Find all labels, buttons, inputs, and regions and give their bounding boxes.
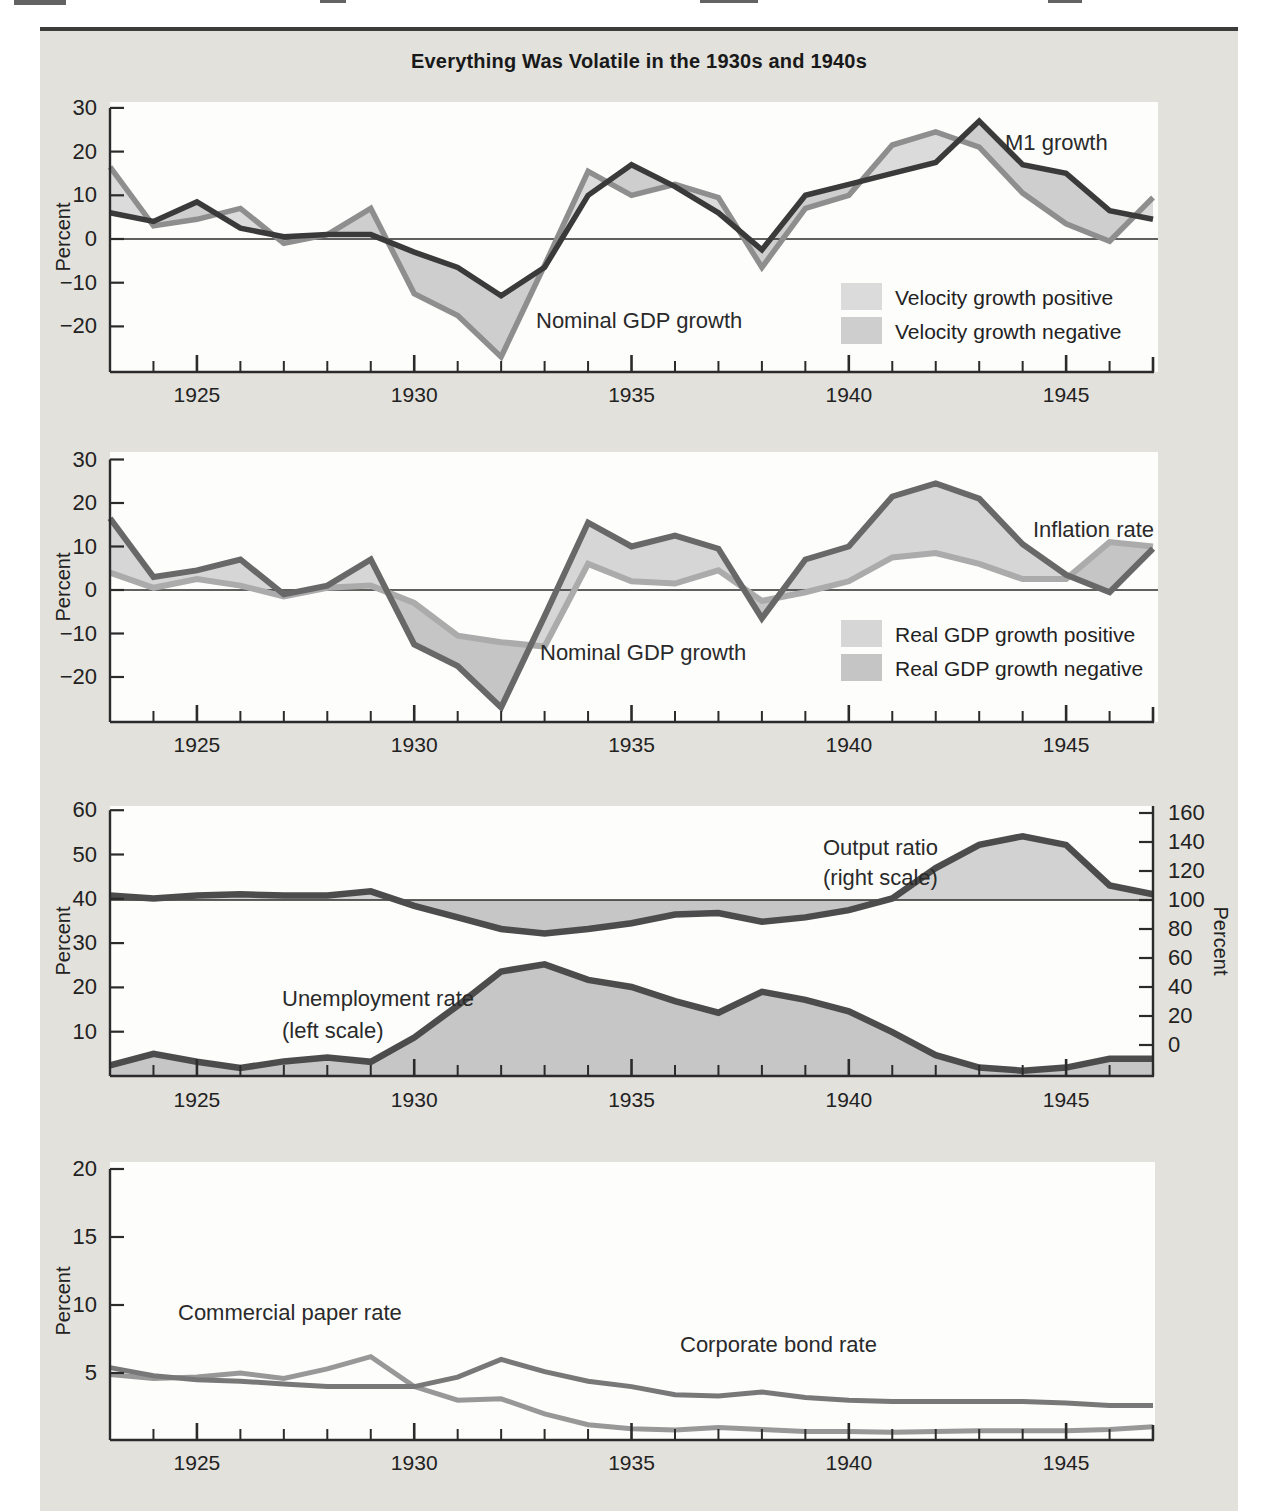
y-tick-label: 50 — [73, 842, 97, 867]
x-tick-label: 1940 — [825, 733, 872, 756]
y-tick-label-right: 140 — [1168, 829, 1205, 854]
series-annotation: Commercial paper rate — [178, 1300, 402, 1325]
y-tick-label: 0 — [85, 226, 97, 251]
x-tick-label: 1940 — [825, 1088, 872, 1111]
x-tick-label: 1945 — [1043, 383, 1090, 406]
series-annotation: Nominal GDP growth — [536, 308, 742, 333]
charts-svg: 3020100−10−2019251930193519401945Percent… — [0, 0, 1261, 1511]
y-tick-label: 10 — [73, 182, 97, 207]
y-tick-label: −10 — [60, 270, 97, 295]
y-axis-title-right: Percent — [1210, 907, 1232, 976]
legend-label: Velocity growth negative — [895, 320, 1121, 343]
y-tick-label: 10 — [73, 1019, 97, 1044]
series-annotation: M1 growth — [1005, 130, 1108, 155]
y-tick-label: 0 — [85, 577, 97, 602]
series-annotation: Corporate bond rate — [680, 1332, 877, 1357]
x-tick-label: 1935 — [608, 383, 655, 406]
series-annotation: Output ratio — [823, 835, 938, 860]
panel-money-velocity: 3020100−10−2019251930193519401945Percent… — [52, 95, 1158, 406]
x-tick-label: 1940 — [825, 383, 872, 406]
series-annotation: Inflation rate — [1033, 517, 1154, 542]
y-axis-title: Percent — [52, 202, 74, 271]
y-tick-label: 30 — [73, 95, 97, 120]
y-tick-label-right: 120 — [1168, 858, 1205, 883]
y-tick-label-right: 80 — [1168, 916, 1192, 941]
y-tick-label: 10 — [73, 1292, 97, 1317]
y-tick-label-right: 160 — [1168, 800, 1205, 825]
x-tick-label: 1945 — [1043, 1088, 1090, 1111]
y-axis-title: Percent — [52, 552, 74, 621]
x-tick-label: 1935 — [608, 733, 655, 756]
x-tick-label: 1925 — [174, 1088, 221, 1111]
panel-interest-rates: 201510519251930193519401945PercentCommer… — [52, 1156, 1155, 1474]
legend-swatch — [841, 654, 882, 681]
x-tick-label: 1930 — [391, 1451, 438, 1474]
x-tick-label: 1940 — [825, 1451, 872, 1474]
legend-label: Real GDP growth positive — [895, 623, 1135, 646]
x-tick-label: 1925 — [174, 1451, 221, 1474]
y-tick-label-right: 60 — [1168, 945, 1192, 970]
y-tick-label-right: 20 — [1168, 1003, 1192, 1028]
y-tick-label: 30 — [73, 930, 97, 955]
y-tick-label: 20 — [73, 139, 97, 164]
x-tick-label: 1945 — [1043, 733, 1090, 756]
y-tick-label: 5 — [85, 1360, 97, 1385]
series-annotation: (right scale) — [823, 865, 938, 890]
panel-output-unemployment: 6050403020101601401201008060402001925193… — [52, 797, 1232, 1111]
y-tick-label-right: 0 — [1168, 1032, 1180, 1057]
y-tick-label: 15 — [73, 1224, 97, 1249]
y-tick-label: −20 — [60, 664, 97, 689]
x-tick-label: 1935 — [608, 1451, 655, 1474]
series-annotation: Unemployment rate — [282, 986, 474, 1011]
y-axis-title: Percent — [52, 906, 74, 975]
y-tick-label-right: 100 — [1168, 887, 1205, 912]
legend-label: Real GDP growth negative — [895, 657, 1143, 680]
y-tick-label: 40 — [73, 886, 97, 911]
y-tick-label: 20 — [73, 490, 97, 515]
y-tick-label: 30 — [73, 447, 97, 472]
legend-label: Velocity growth positive — [895, 286, 1113, 309]
y-axis-title: Percent — [52, 1266, 74, 1335]
series-annotation: (left scale) — [282, 1018, 383, 1043]
x-tick-label: 1925 — [174, 383, 221, 406]
y-tick-label: 60 — [73, 797, 97, 822]
y-tick-label: 10 — [73, 534, 97, 559]
x-tick-label: 1945 — [1043, 1451, 1090, 1474]
y-tick-label: 20 — [73, 974, 97, 999]
x-tick-label: 1935 — [608, 1088, 655, 1111]
series-annotation: Nominal GDP growth — [540, 640, 746, 665]
y-tick-label: −10 — [60, 621, 97, 646]
x-tick-label: 1930 — [391, 1088, 438, 1111]
x-tick-label: 1925 — [174, 733, 221, 756]
y-tick-label: −20 — [60, 313, 97, 338]
legend-swatch — [841, 283, 882, 310]
legend-swatch — [841, 620, 882, 647]
y-tick-label: 20 — [73, 1156, 97, 1181]
y-tick-label-right: 40 — [1168, 974, 1192, 999]
x-tick-label: 1930 — [391, 383, 438, 406]
x-tick-label: 1930 — [391, 733, 438, 756]
panel-gdp-inflation: 3020100−10−2019251930193519401945Percent… — [52, 447, 1158, 757]
legend-swatch — [841, 317, 882, 344]
book-figure-page: Everything Was Volatile in the 1930s and… — [0, 0, 1261, 1511]
